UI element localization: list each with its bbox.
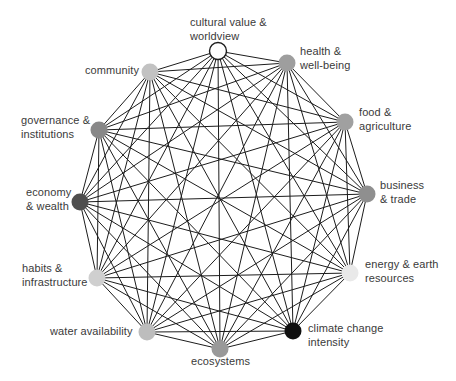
node-energy-earth-resources bbox=[342, 265, 359, 282]
node-label-community: community bbox=[85, 64, 139, 78]
node-health-well-being bbox=[279, 55, 296, 72]
node-governance-institutions bbox=[91, 122, 108, 139]
node-label-business-trade: business & trade bbox=[380, 179, 424, 206]
node-label-health-well-being: health & well-being bbox=[300, 45, 351, 72]
edge bbox=[220, 331, 293, 349]
node-climate-change-intensity bbox=[285, 323, 302, 340]
node-business-trade bbox=[359, 186, 376, 203]
edge bbox=[218, 51, 350, 273]
edge bbox=[147, 331, 293, 332]
node-label-climate-change-intensity: climate change intensity bbox=[308, 322, 383, 349]
node-cultural-value-worldview bbox=[210, 43, 227, 60]
node-label-energy-earth-resources: energy & earth resources bbox=[365, 258, 439, 285]
edge bbox=[97, 273, 350, 278]
edge bbox=[97, 278, 147, 332]
edge bbox=[99, 130, 350, 273]
node-water-availability bbox=[139, 324, 156, 341]
edge-lines bbox=[80, 51, 367, 349]
edge bbox=[218, 51, 220, 349]
edge bbox=[220, 63, 287, 349]
node-label-cultural-value-worldview: cultural value & worldview bbox=[190, 16, 267, 43]
edge bbox=[293, 122, 345, 331]
edge bbox=[80, 202, 350, 273]
node-label-ecosystems: ecosystems bbox=[191, 355, 250, 369]
node-label-economy-wealth: economy & wealth bbox=[26, 186, 71, 213]
edge bbox=[150, 72, 293, 331]
network-diagram: cultural value & worldviewhealth & well-… bbox=[0, 0, 456, 381]
edge bbox=[99, 51, 218, 130]
node-label-food-agriculture: food & agriculture bbox=[359, 106, 411, 133]
edge bbox=[293, 194, 367, 331]
node-food-agriculture bbox=[337, 114, 354, 131]
edge bbox=[147, 332, 220, 349]
edge bbox=[345, 122, 350, 273]
node-label-habits-infrastructure: habits & infrastructure bbox=[22, 262, 88, 289]
node-label-water-availability: water availability bbox=[50, 325, 133, 339]
edge bbox=[218, 51, 293, 331]
edge bbox=[97, 130, 99, 278]
edge bbox=[99, 130, 147, 332]
node-label-governance-institutions: governance & institutions bbox=[21, 114, 90, 141]
edge bbox=[147, 72, 150, 332]
node-habits-infrastructure bbox=[89, 270, 106, 287]
node-economy-wealth bbox=[72, 194, 89, 211]
node-community bbox=[142, 64, 159, 81]
edge bbox=[80, 202, 147, 332]
